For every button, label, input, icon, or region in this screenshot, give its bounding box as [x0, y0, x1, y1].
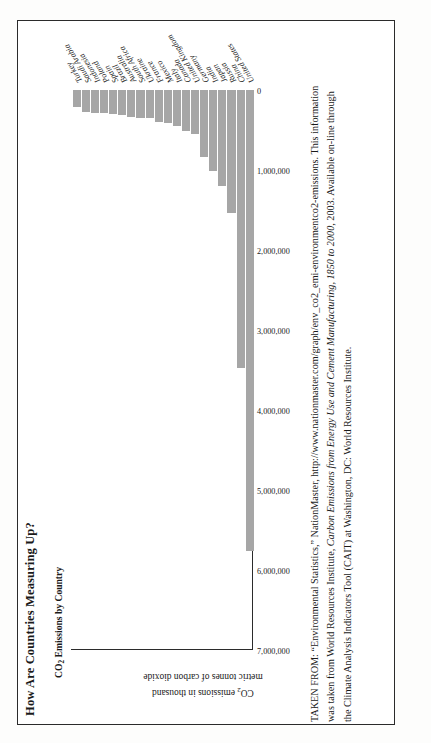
bar-row: [100, 90, 108, 650]
bar: [182, 90, 190, 131]
bar-row: [246, 90, 254, 650]
bar: [218, 90, 226, 186]
bar: [109, 90, 117, 114]
page-canvas: How Are Countries Measuring Up? CO2 Emis…: [0, 0, 431, 743]
bar-row: [155, 90, 163, 650]
source-caption: TAKEN FROM: “Environmental Statistics,” …: [307, 82, 356, 722]
bar: [146, 90, 154, 118]
bar: [227, 90, 235, 213]
bar-row: [209, 90, 217, 650]
chart-region: How Are Countries Measuring Up? CO2 Emis…: [19, 54, 287, 722]
tick-label-row: 7,000,0006,000,0005,000,0004,000,0003,00…: [255, 90, 285, 650]
bar-row: [109, 90, 117, 650]
bar-row: [173, 90, 181, 650]
axis-title-pre: CO: [241, 688, 254, 698]
axis-title: CO2 emissions in thousand metric tonnes …: [103, 671, 303, 699]
bar: [91, 90, 99, 113]
tick-label: 1,000,000: [257, 167, 290, 176]
axis-title-post: emissions in thousand: [152, 688, 237, 698]
bar: [82, 90, 90, 112]
bar-row: [82, 90, 90, 650]
bar: [118, 90, 126, 115]
bar-row: [73, 90, 81, 650]
tick-label: 6,000,000: [257, 567, 290, 576]
bar: [100, 90, 108, 113]
tick-label: 7,000,000: [257, 647, 290, 656]
tick-label: 5,000,000: [257, 487, 290, 496]
tick-label: 0: [257, 87, 261, 96]
bar-row: [136, 90, 144, 650]
chart-subtitle-pre: CO: [53, 664, 64, 678]
bar-row: [191, 90, 199, 650]
bar: [173, 90, 181, 126]
chart-title: How Are Countries Measuring Up?: [23, 522, 38, 716]
bar-row: [118, 90, 126, 650]
tick-label: 2,000,000: [257, 247, 290, 256]
bar: [73, 90, 81, 107]
tick-label: 3,000,000: [257, 327, 290, 336]
bar: [164, 90, 172, 123]
bar: [246, 90, 254, 551]
axis-title-line2: metric tonnes of carbon dioxide: [103, 671, 303, 684]
bar-row: [164, 90, 172, 650]
bar-row: [218, 90, 226, 650]
bar: [127, 90, 135, 117]
bar-row: [91, 90, 99, 650]
bar: [237, 90, 245, 368]
bar: [155, 90, 163, 122]
chart-subtitle-post: Emissions by Country: [53, 567, 64, 660]
caption-region: TAKEN FROM: “Environmental Statistics,” …: [307, 54, 393, 722]
bar-row: [182, 90, 190, 650]
tick-label: 4,000,000: [257, 407, 290, 416]
chart-subtitle: CO2 Emissions by Country: [53, 567, 66, 678]
axis-title-subscript: 2: [237, 686, 241, 694]
bar: [191, 90, 199, 134]
plot-area: [71, 90, 253, 650]
bar: [200, 90, 208, 157]
chart-subtitle-subscript: 2: [57, 660, 66, 664]
caption-italic-title: Carbon Emissions from Energy Use and Cem…: [325, 226, 336, 546]
axis-title-line1: CO2 emissions in thousand: [103, 684, 303, 700]
bar-row: [127, 90, 135, 650]
bar-row: [146, 90, 154, 650]
bar-row: [227, 90, 235, 650]
bar: [136, 90, 144, 118]
bar-row: [200, 90, 208, 650]
bar-row: [237, 90, 245, 650]
bar: [209, 90, 217, 171]
